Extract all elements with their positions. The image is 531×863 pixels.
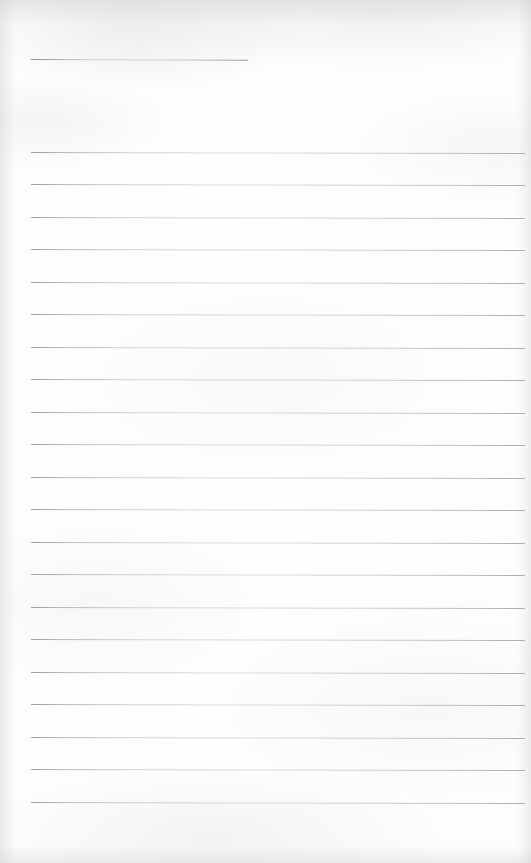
ruled-line xyxy=(31,314,525,316)
scanned-page xyxy=(0,0,531,863)
ruled-line xyxy=(31,639,525,641)
ruled-line xyxy=(31,509,525,511)
ruled-line xyxy=(31,574,525,576)
ruled-line xyxy=(31,769,525,771)
paper-texture-overlay xyxy=(0,0,531,863)
ruled-line xyxy=(31,444,525,446)
ruled-line xyxy=(31,802,525,804)
ruled-line xyxy=(31,704,525,706)
ruled-line xyxy=(31,152,525,154)
ruled-line xyxy=(31,542,525,544)
ruled-line xyxy=(31,379,525,381)
ruled-line xyxy=(31,282,525,284)
ruled-line xyxy=(31,737,525,739)
header-rule xyxy=(31,59,248,61)
ruled-line xyxy=(31,347,525,349)
ruled-line xyxy=(31,249,525,251)
ruled-line xyxy=(31,607,525,609)
ruled-line xyxy=(31,672,525,674)
ruled-line xyxy=(31,412,525,414)
ruled-line xyxy=(31,217,525,219)
paper-edge-vignette xyxy=(0,0,531,863)
ruled-line xyxy=(31,184,525,186)
ruled-line xyxy=(31,477,525,479)
